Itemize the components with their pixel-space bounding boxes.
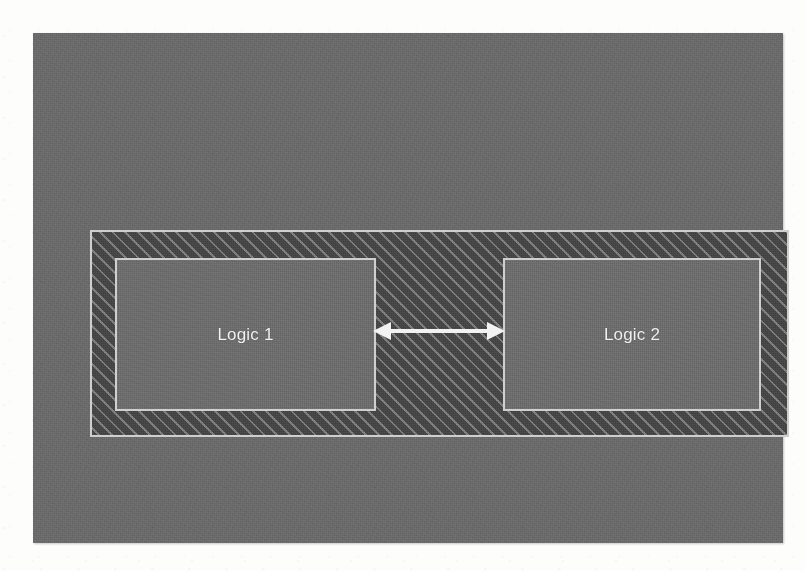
double-headed-arrow-icon[interactable] xyxy=(371,316,507,346)
logic-block-2[interactable]: Logic 2 xyxy=(503,258,761,411)
logic-block-1[interactable]: Logic 1 xyxy=(115,258,376,411)
logic-block-2-label: Logic 2 xyxy=(604,325,660,345)
slide-canvas: Logic 1 Logic 2 xyxy=(33,33,783,543)
logic-block-1-label: Logic 1 xyxy=(217,325,273,345)
page-background: Logic 1 Logic 2 xyxy=(0,0,806,571)
